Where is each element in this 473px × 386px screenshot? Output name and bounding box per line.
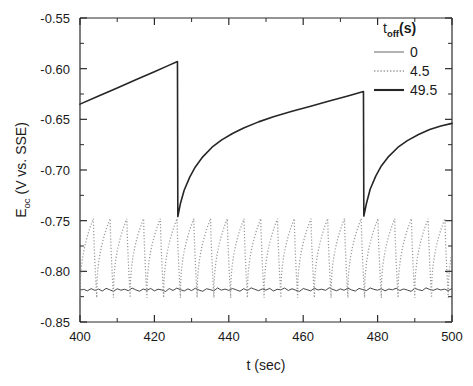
y-tick-label: -0.60 [40, 62, 70, 77]
y-tick-label: -0.75 [40, 214, 70, 229]
series-path-49point5 [80, 62, 452, 217]
y-axis-ticks [80, 18, 452, 322]
y-axis-title-subscript: oc [21, 198, 32, 208]
legend-label-0: 0 [410, 44, 418, 60]
figure-container: 400420440460480500 -0.85-0.80-0.75-0.70-… [0, 0, 473, 386]
legend-label-49point5: 49.5 [410, 82, 437, 98]
legend-entry-49point5[interactable]: 49.5 [374, 82, 437, 98]
x-tick-label: 460 [292, 329, 314, 344]
y-axis-title-main: E [13, 208, 29, 217]
legend-title-unit: (s) [399, 20, 416, 36]
x-tick-label: 420 [144, 329, 166, 344]
x-tick-label: 440 [218, 329, 240, 344]
legend-title-subscript: off [387, 28, 400, 39]
legend-entry-4point5[interactable]: 4.5 [374, 63, 430, 79]
y-axis-tick-labels: -0.85-0.80-0.75-0.70-0.65-0.60-0.55 [40, 11, 70, 330]
legend-label-4point5: 4.5 [410, 63, 430, 79]
x-tick-label: 500 [441, 329, 463, 344]
y-tick-label: -0.85 [40, 315, 70, 330]
legend-title: toff(s) [383, 20, 416, 39]
y-tick-label: -0.55 [40, 11, 70, 26]
x-axis-tick-labels: 400420440460480500 [69, 329, 463, 344]
oc-potential-chart: 400420440460480500 -0.85-0.80-0.75-0.70-… [0, 0, 473, 386]
y-axis-title: Eoc (V vs. SSE) [13, 122, 32, 218]
x-axis-title: t (sec) [247, 357, 286, 373]
y-tick-label: -0.80 [40, 264, 70, 279]
data-series-group [80, 62, 452, 298]
series-path-0 [80, 288, 452, 292]
plot-frame [80, 18, 452, 322]
y-axis-title-group: Eoc (V vs. SSE) [13, 122, 32, 218]
legend: toff(s) 0 4.5 49.5 [374, 20, 437, 98]
x-tick-label: 480 [367, 329, 389, 344]
x-tick-label: 400 [69, 329, 91, 344]
y-axis-title-rest: (V vs. SSE) [13, 122, 29, 198]
x-axis-ticks [80, 18, 452, 322]
legend-entry-0[interactable]: 0 [374, 44, 418, 60]
series-path-4point5 [80, 219, 452, 298]
y-tick-label: -0.70 [40, 163, 70, 178]
y-tick-label: -0.65 [40, 112, 70, 127]
